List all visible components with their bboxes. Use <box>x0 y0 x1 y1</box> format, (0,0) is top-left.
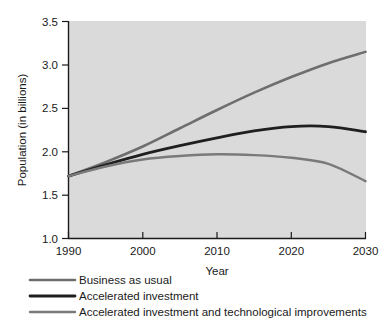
x-tick-label-1990: 1990 <box>56 245 82 257</box>
y-tick-label-2-5: 2.5 <box>42 102 58 114</box>
y-tick-label-1-0: 1.0 <box>42 233 58 245</box>
legend: Business as usual Accelerated investment… <box>30 274 367 318</box>
y-tick-label-1-5: 1.5 <box>42 189 58 201</box>
y-tick-label-3-0: 3.0 <box>42 59 58 71</box>
x-tick-label-2010: 2010 <box>204 245 230 257</box>
population-projection-figure: 3.5 3.0 2.5 2.0 1.5 1.0 1990 2000 2010 2… <box>0 0 390 329</box>
legend-label-accelerated-investment: Accelerated investment <box>79 290 199 302</box>
y-axis-title: Population (in billions) <box>16 74 28 187</box>
y-axis-ticks <box>62 22 68 239</box>
y-tick-label-3-5: 3.5 <box>42 16 58 28</box>
x-tick-label-2030: 2030 <box>353 245 379 257</box>
legend-label-accelerated-investment-technology: Accelerated investment and technological… <box>79 306 367 318</box>
x-tick-label-2000: 2000 <box>130 245 156 257</box>
line-chart: 3.5 3.0 2.5 2.0 1.5 1.0 1990 2000 2010 2… <box>0 0 390 329</box>
y-tick-label-2-0: 2.0 <box>42 146 58 158</box>
legend-label-business-as-usual: Business as usual <box>79 274 172 286</box>
plot-texture-overlay <box>68 21 366 238</box>
x-axis-title: Year <box>205 265 228 277</box>
x-tick-label-2020: 2020 <box>279 245 305 257</box>
